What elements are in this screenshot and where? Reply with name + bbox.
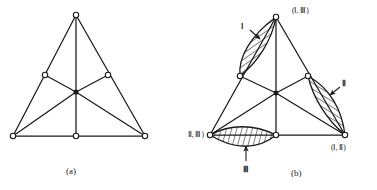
node-apex bbox=[273, 14, 278, 19]
node-center bbox=[74, 90, 78, 94]
node-bottom-right bbox=[342, 132, 347, 137]
node-right-mid bbox=[305, 73, 310, 78]
node-bottom-left bbox=[10, 133, 15, 138]
region-III-label: Ⅲ bbox=[243, 165, 249, 174]
region-II-arrow bbox=[330, 87, 340, 95]
panel-a-caption: (a) bbox=[66, 166, 76, 176]
node-bottom-left bbox=[207, 132, 212, 137]
edge-rightmid-center bbox=[76, 75, 108, 92]
edge-leftmid-center bbox=[45, 75, 76, 92]
region-I-label: Ⅰ bbox=[241, 22, 243, 31]
panel-b-diagram: Ⅰ Ⅱ Ⅲ (Ⅰ, Ⅲ) (Ⅱ, Ⅲ) (Ⅰ, Ⅱ) bbox=[188, 0, 377, 190]
panel-b-edges bbox=[210, 17, 345, 135]
vertex-label-apex: (Ⅰ, Ⅲ) bbox=[292, 6, 309, 15]
edge-rightmid-center bbox=[276, 76, 308, 93]
node-left-mid bbox=[42, 72, 47, 77]
panel-a-nodes bbox=[10, 12, 147, 138]
node-bottom-mid bbox=[273, 132, 278, 137]
panel-b-caption: (b) bbox=[291, 168, 302, 178]
node-right-mid bbox=[105, 72, 110, 77]
vertex-label-bottom-right: (Ⅰ, Ⅱ) bbox=[331, 143, 346, 152]
node-left-mid bbox=[237, 73, 242, 78]
edge-bottomright-center bbox=[76, 92, 145, 136]
panel-a-edges bbox=[13, 15, 145, 136]
edge-bottomleft-center bbox=[13, 92, 76, 136]
figure-root: (a) bbox=[0, 0, 377, 190]
edge-leftmid-center bbox=[240, 76, 276, 93]
node-bottom-mid bbox=[73, 133, 78, 138]
node-center bbox=[274, 91, 278, 95]
panel-a-diagram bbox=[0, 0, 188, 190]
panel-b-regions bbox=[210, 17, 345, 146]
node-apex bbox=[73, 12, 78, 17]
region-III-lens bbox=[210, 127, 276, 147]
region-II-label: Ⅱ bbox=[342, 79, 346, 88]
panel-b-nodes bbox=[207, 14, 347, 137]
vertex-label-bottom-left: (Ⅱ, Ⅲ) bbox=[188, 130, 204, 139]
node-bottom-right bbox=[142, 133, 147, 138]
